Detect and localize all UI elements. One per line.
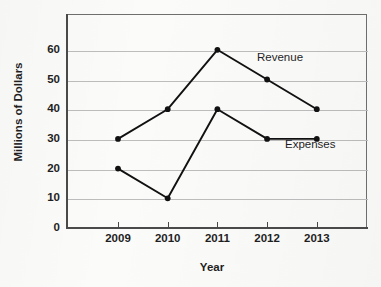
data-point-revenue-2012: [264, 77, 270, 83]
data-point-expenses-2012: [264, 136, 270, 142]
series-line-expenses: [118, 109, 317, 198]
data-point-expenses-2010: [165, 195, 171, 201]
data-point-expenses-2011: [215, 106, 221, 112]
data-point-revenue-2010: [165, 106, 171, 112]
data-point-revenue-2009: [115, 136, 121, 142]
series-label-revenue: Revenue: [257, 52, 303, 64]
line-chart-figure: Millions of Dollars 0102030405060 200920…: [0, 0, 381, 287]
data-point-revenue-2011: [215, 47, 221, 53]
series-label-expenses: Expenses: [285, 139, 336, 151]
data-point-expenses-2009: [115, 166, 121, 172]
data-point-revenue-2013: [314, 106, 320, 112]
